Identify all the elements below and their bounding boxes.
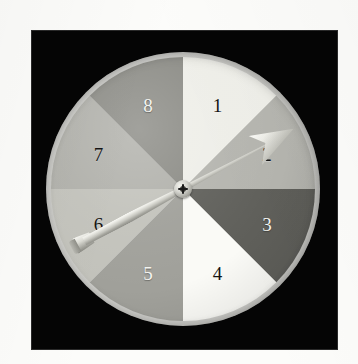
sector-label-1: 1 <box>213 95 223 114</box>
spinner-board[interactable]: 12345678 <box>46 52 320 326</box>
figure-page: 12345678 <box>0 0 358 364</box>
sector-label-3: 3 <box>262 214 272 233</box>
sector-label-4: 4 <box>213 264 223 283</box>
sector-label-8: 8 <box>143 95 153 114</box>
photo-frame: 12345678 <box>31 30 338 350</box>
sector-label-5: 5 <box>143 264 153 283</box>
spinner-hub[interactable] <box>174 180 192 198</box>
sector-label-7: 7 <box>94 145 104 164</box>
hub-screw-slot-horizontal <box>178 188 188 190</box>
